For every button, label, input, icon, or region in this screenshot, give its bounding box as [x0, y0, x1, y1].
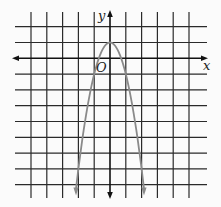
axes: [12, 10, 208, 199]
y-axis-label: y: [97, 8, 106, 23]
origin-label: O: [96, 60, 107, 75]
coordinate-plane: y x O: [0, 0, 221, 207]
x-axis-label: x: [203, 58, 211, 73]
grid-lines: [15, 12, 207, 198]
x-axis-left-arrow-icon: [12, 56, 19, 62]
y-axis-up-arrow-icon: [107, 10, 113, 17]
y-axis-down-arrow-icon: [107, 192, 113, 199]
